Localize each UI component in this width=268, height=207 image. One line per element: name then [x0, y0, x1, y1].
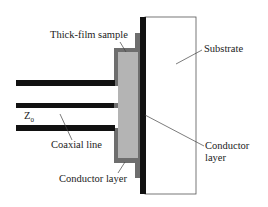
- label-z0: Z0: [24, 110, 34, 126]
- label-substrate: Substrate: [204, 43, 243, 55]
- coax-center-tip: [114, 103, 118, 108]
- coax-outer-top: [16, 80, 115, 86]
- substrate-conductor-layer: [140, 17, 146, 194]
- leader-conductor-bottom: [118, 162, 125, 173]
- label-thick-film-sample: Thick-film sample: [50, 29, 128, 41]
- z0-subscript: 0: [30, 116, 34, 124]
- thick-film-sample: [118, 52, 138, 158]
- label-conductor-layer-right: Conductor layer: [205, 140, 249, 164]
- coax-center: [16, 103, 116, 108]
- diagram-canvas: [0, 0, 268, 207]
- label-conductor-line1: Conductor: [205, 140, 249, 152]
- label-coaxial-line: Coaxial line: [51, 139, 102, 151]
- substrate: [145, 17, 196, 194]
- label-conductor-layer-bottom: Conductor layer: [59, 173, 127, 185]
- label-conductor-line2: layer: [205, 152, 249, 164]
